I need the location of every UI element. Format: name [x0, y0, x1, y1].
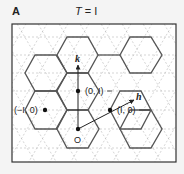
- k-vector-label: k: [75, 53, 80, 64]
- lattice-point-1-0: [108, 108, 112, 112]
- hexagonal-lattice-diagram: (0, I) (−I, 0) (I, 0) O k h: [0, 0, 184, 174]
- label-origin: O: [74, 135, 81, 145]
- lattice-point-0-1: [76, 89, 80, 93]
- lattice-point-origin: [76, 127, 80, 131]
- h-vector-label: h: [136, 91, 142, 102]
- lattice-point-neg1-0: [43, 108, 47, 112]
- label-1-0: (I, 0): [117, 105, 136, 115]
- label-0-1: (0, I): [85, 86, 104, 96]
- label-neg1-0: (−I, 0): [14, 105, 38, 115]
